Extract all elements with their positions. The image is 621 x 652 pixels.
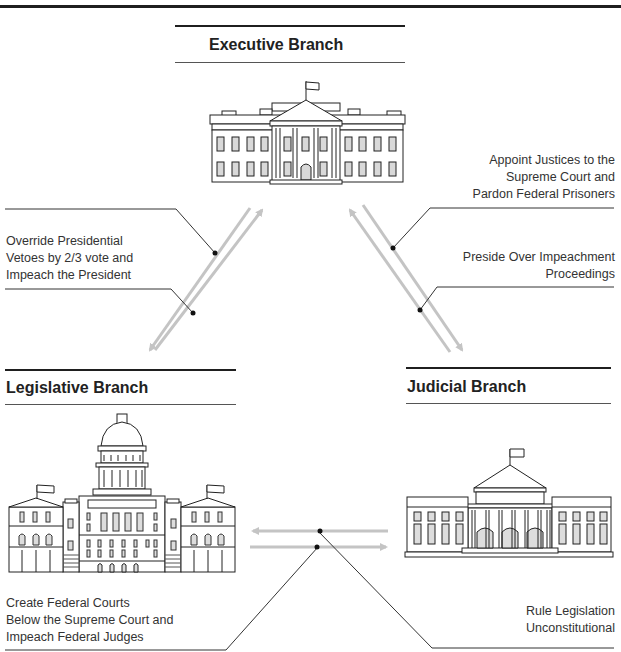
check-arrows xyxy=(150,205,462,547)
arrow-legislative-to-executive xyxy=(155,210,262,350)
check-preside-over-impeachment: Preside Over Impeachment Proceedings xyxy=(463,249,615,283)
capitol-icon xyxy=(9,414,235,572)
diagram-graphics xyxy=(0,0,621,652)
check-rule-legislation-unconstitutional: Rule Legislation Unconstitutional xyxy=(526,603,615,637)
check-create-federal-courts-impeach-judges: Create Federal Courts Below the Supreme … xyxy=(6,595,173,646)
check-appoint-justices-pardon: Appoint Justices to the Supreme Court an… xyxy=(473,152,615,203)
arrow-judicial-to-executive xyxy=(350,210,450,352)
arrow-executive-to-legislative xyxy=(150,208,250,350)
supreme-court-icon xyxy=(405,449,613,557)
check-override-vetoes-impeach-president: Override Presidential Vetoes by 2/3 vote… xyxy=(6,233,133,284)
white-house-icon xyxy=(210,81,405,184)
